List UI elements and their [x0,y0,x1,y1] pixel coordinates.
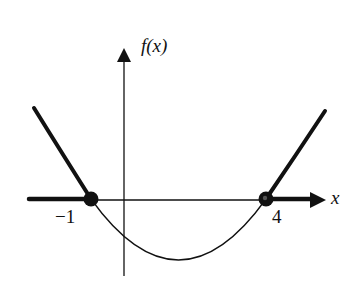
tick-label-minus-one: −1 [55,207,75,226]
root-point-left [84,192,99,207]
x-axis-label: x [331,188,339,207]
x-axis-arrow-icon [310,192,326,208]
y-axis-label: f(x) [141,36,167,55]
parabola-right-branch [266,111,325,199]
parabola-sign-diagram: f(x) x −1 4 [0,0,358,285]
diagram-canvas [0,0,358,285]
parabola-left-branch [34,108,91,199]
parabola-negative-part [91,199,266,260]
tick-label-four: 4 [272,207,282,226]
root-point-right-highlight [263,196,267,200]
y-axis-arrow-icon [117,48,131,62]
